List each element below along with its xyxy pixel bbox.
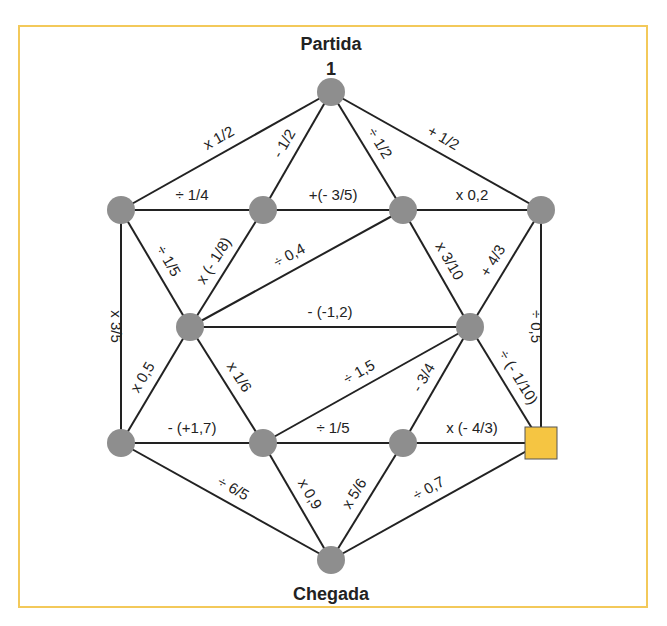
edge-b-c <box>190 210 403 327</box>
edge-label: +(- 3/5) <box>309 186 358 203</box>
edge-label: - (-1,2) <box>308 303 353 320</box>
start-title: Partida <box>300 34 362 54</box>
node-f <box>389 429 417 457</box>
node-b <box>389 196 417 224</box>
node-l1 <box>107 196 135 224</box>
node-e <box>249 429 277 457</box>
edge-label: x 3/5 <box>108 310 125 343</box>
node-r1 <box>527 196 555 224</box>
edge-label: ÷ 0,5 <box>528 310 545 343</box>
node-a <box>249 196 277 224</box>
edge-label: x (- 4/3) <box>446 419 498 436</box>
operations-graph: x 1/2- 1/2÷ 1/2+ 1/2÷ 1/4+(- 3/5)x 0,2÷ … <box>0 0 667 626</box>
node-start <box>317 78 345 106</box>
node-end <box>317 546 345 574</box>
node-l2 <box>107 429 135 457</box>
edge-label: ÷ 1/5 <box>316 419 349 436</box>
node-c <box>176 313 204 341</box>
edge-label: ÷ (- 1/10) <box>496 347 542 408</box>
node-d <box>456 313 484 341</box>
end-title: Chegada <box>293 584 370 604</box>
edge-sq-end <box>331 443 541 560</box>
square-node <box>525 427 557 459</box>
edge-label: x 3/10 <box>432 239 467 283</box>
edge-label: x (- 1/8) <box>192 234 234 287</box>
edge-label: ÷ 1/4 <box>175 186 208 203</box>
edge-l2-end <box>121 443 331 560</box>
edge-start-r1 <box>331 92 541 210</box>
start-value: 1 <box>326 59 336 79</box>
edge-d-e <box>263 327 470 443</box>
edge-start-l1 <box>121 92 331 210</box>
edge-label: - (+1,7) <box>168 419 217 436</box>
edge-label: x 0,2 <box>456 186 489 203</box>
